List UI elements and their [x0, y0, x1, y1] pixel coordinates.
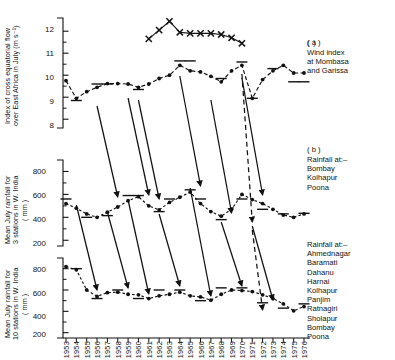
data-point — [230, 69, 234, 73]
data-point — [199, 70, 203, 74]
data-point — [271, 69, 275, 73]
data-point — [126, 292, 130, 296]
data-point — [74, 96, 78, 100]
data-point — [188, 69, 192, 73]
data-point — [219, 80, 223, 84]
data-point — [137, 85, 141, 89]
data-point — [64, 79, 68, 83]
data-point — [147, 297, 151, 301]
data-point — [209, 74, 213, 78]
data-point-cross — [228, 35, 234, 41]
data-point — [240, 289, 244, 293]
data-point — [95, 215, 99, 219]
data-point — [178, 290, 182, 294]
data-point — [281, 63, 285, 67]
data-point — [95, 85, 99, 89]
plot-canvas — [0, 0, 395, 360]
data-point — [261, 293, 265, 297]
data-point — [261, 202, 265, 206]
data-point — [219, 214, 223, 218]
figure-root: Index of cross equatorial flow over East… — [0, 0, 395, 360]
data-point — [85, 90, 89, 94]
data-point — [116, 290, 120, 294]
y-axis-spine-a — [57, 18, 63, 128]
data-point — [157, 294, 161, 298]
data-point — [178, 63, 182, 67]
data-point — [271, 207, 275, 211]
data-point — [292, 71, 296, 75]
connector-arrow — [138, 100, 159, 199]
data-point — [116, 82, 120, 86]
connector-arrow — [159, 214, 180, 286]
data-point — [292, 309, 296, 313]
data-point — [199, 295, 203, 299]
connector-arrow — [107, 212, 128, 288]
connector-arrow — [252, 226, 273, 300]
data-point — [240, 193, 244, 197]
data-point — [85, 212, 89, 216]
series-line — [66, 267, 304, 311]
data-point-cross — [239, 40, 245, 46]
series-line — [66, 65, 304, 98]
connector-arrow — [221, 222, 242, 286]
data-point — [147, 82, 151, 86]
data-point-cross — [146, 36, 152, 42]
data-point — [147, 204, 151, 208]
connector-arrow — [242, 78, 263, 195]
data-point — [302, 305, 306, 309]
data-point — [105, 291, 109, 295]
data-point — [168, 201, 172, 205]
data-point — [168, 292, 172, 296]
y-axis-spine-b — [57, 160, 63, 246]
connector-arrow — [180, 76, 201, 186]
data-point — [64, 202, 68, 206]
data-point — [230, 288, 234, 292]
connector-arrow-dashed — [252, 230, 262, 310]
data-point — [178, 195, 182, 199]
data-point-cross — [156, 27, 162, 33]
data-point — [199, 202, 203, 206]
data-point — [250, 290, 254, 294]
data-point — [292, 215, 296, 219]
data-point — [219, 292, 223, 296]
data-point — [157, 77, 161, 81]
data-point — [126, 82, 130, 86]
series-line — [149, 21, 242, 43]
data-point — [137, 293, 141, 297]
connector-arrow — [128, 200, 149, 294]
data-point — [85, 288, 89, 292]
data-point — [116, 205, 120, 209]
connector-arrow — [128, 98, 149, 195]
data-point — [64, 265, 68, 269]
data-point — [209, 298, 213, 302]
data-point — [261, 78, 265, 82]
data-point — [302, 71, 306, 75]
data-point — [95, 295, 99, 299]
data-point — [250, 198, 254, 202]
data-point — [281, 302, 285, 306]
data-point — [188, 294, 192, 298]
series-line — [66, 192, 304, 217]
connector-arrow — [97, 106, 118, 197]
data-point — [168, 73, 172, 77]
data-point-cross — [166, 18, 172, 24]
y-axis-spine-c — [57, 258, 63, 338]
data-point — [240, 63, 244, 67]
data-point — [209, 210, 213, 214]
connector-arrow — [211, 100, 232, 213]
